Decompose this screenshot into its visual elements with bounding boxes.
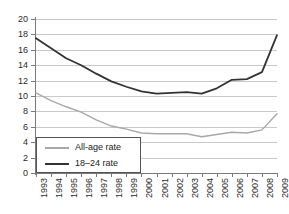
series-layer [0, 0, 289, 214]
series-line-all-age [36, 93, 277, 137]
line-chart: 02468101214161820 1993199419951996199719… [0, 0, 289, 214]
legend-label-all-age: All-age rate [75, 142, 121, 153]
legend: All-age rate 18–24 rate [36, 137, 141, 173]
series-line-18-24 [36, 35, 277, 94]
legend-label-18-24: 18–24 rate [75, 158, 118, 169]
legend-item-all-age: All-age rate [37, 141, 140, 155]
legend-item-18-24: 18–24 rate [37, 157, 140, 171]
legend-swatch-all-age [45, 147, 69, 149]
legend-swatch-18-24 [45, 163, 69, 165]
